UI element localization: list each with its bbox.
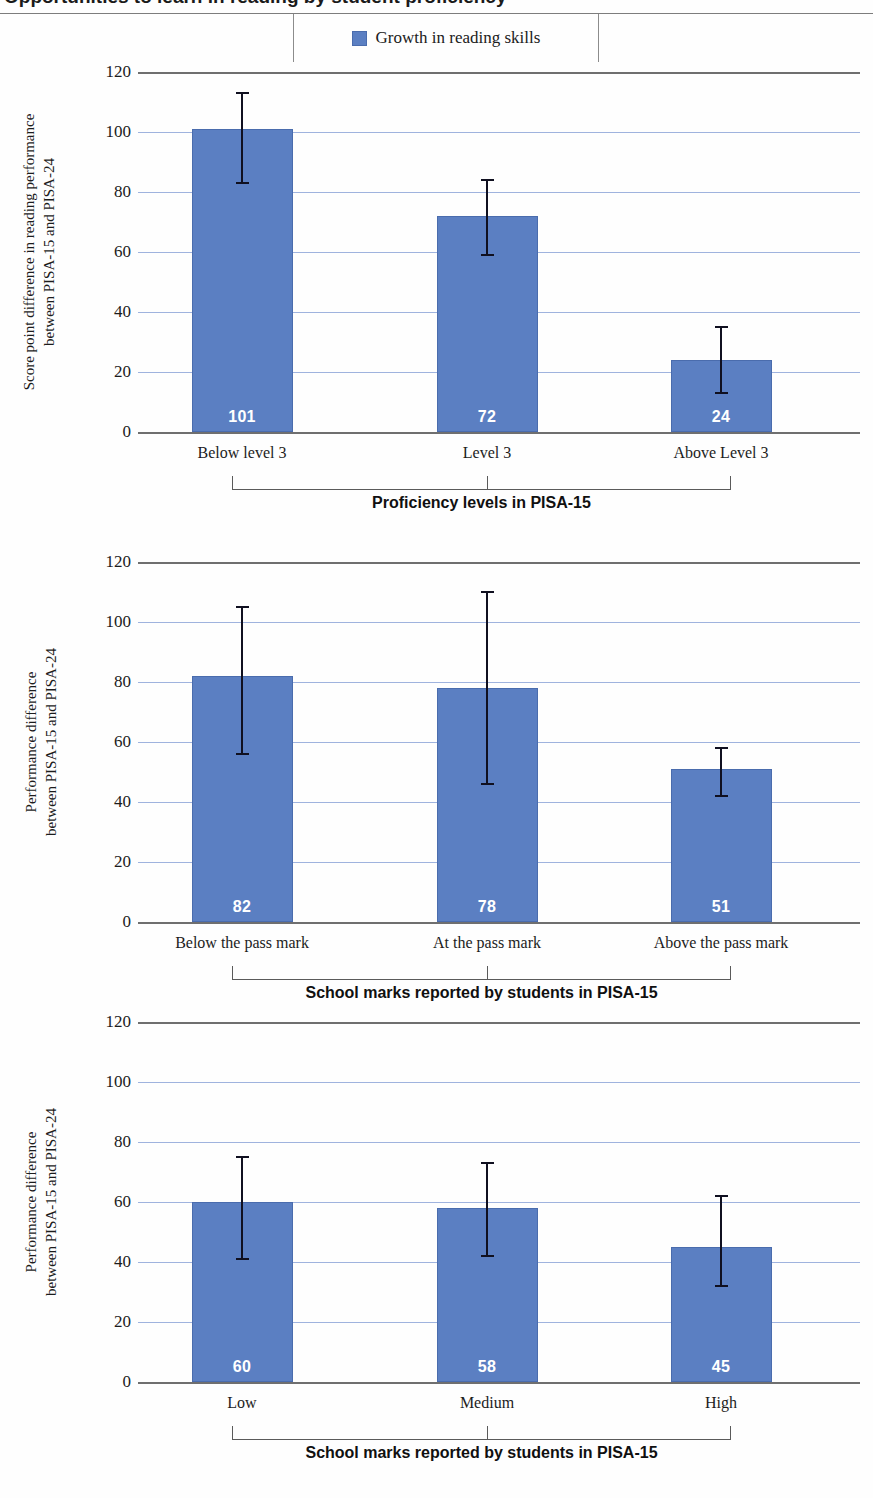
figure-page: Opportunities to learn in reading by stu…	[0, 0, 873, 1498]
bar-value-label: 72	[438, 408, 537, 426]
category-group-bracket	[232, 476, 731, 490]
bracket-tick-left	[232, 966, 233, 980]
bar-value-label: 78	[438, 898, 537, 916]
error-bar-cap-lower	[715, 1285, 728, 1287]
legend-swatch-icon	[352, 31, 367, 46]
y-axis-label-line1: Score point difference in reading perfor…	[21, 114, 37, 391]
error-bar	[720, 1196, 722, 1286]
x-axis-group-label: School marks reported by students in PIS…	[305, 1444, 657, 1462]
error-bar-cap-upper	[715, 747, 728, 749]
bar-value-label: 51	[672, 898, 771, 916]
legend-label: Growth in reading skills	[376, 28, 541, 48]
bar-value-label: 60	[193, 1358, 292, 1376]
y-axis-label: Performance differencebetween PISA-15 an…	[22, 1022, 62, 1382]
error-bar	[241, 1157, 243, 1259]
x-axis-group-label: School marks reported by students in PIS…	[305, 984, 657, 1002]
bracket-horizontal	[232, 489, 731, 490]
bracket-horizontal	[232, 1439, 731, 1440]
x-axis-line	[138, 432, 860, 434]
bracket-horizontal	[232, 979, 731, 980]
gridline-120	[138, 72, 860, 74]
bar-value-label: 82	[193, 898, 292, 916]
x-axis-tick-label: At the pass mark	[433, 934, 541, 952]
error-bar-cap-upper	[715, 326, 728, 328]
plot-area: 020406080100120Score point difference in…	[138, 72, 860, 432]
legend-content: Growth in reading skills	[293, 14, 599, 62]
y-axis-label: Performance differencebetween PISA-15 an…	[22, 562, 62, 922]
error-bar	[720, 327, 722, 393]
chart-proficiency: 020406080100120Score point difference in…	[0, 72, 873, 542]
x-axis-line	[138, 1382, 860, 1384]
bracket-tick-left	[232, 1426, 233, 1440]
error-bar-cap-upper	[481, 179, 494, 181]
gridline-120	[138, 1022, 860, 1024]
gridline-80	[138, 1142, 860, 1143]
error-bar	[241, 607, 243, 754]
y-axis-tick-label: 20	[46, 362, 138, 382]
y-axis-label-line2: between PISA-15 and PISA-24	[40, 72, 60, 432]
gridline-120	[138, 562, 860, 564]
error-bar-cap-lower	[236, 753, 249, 755]
error-bar-cap-lower	[715, 392, 728, 394]
figure-title-text: Opportunities to learn in reading by stu…	[4, 0, 507, 8]
bracket-tick-middle	[487, 476, 488, 490]
category-group-bracket	[232, 1426, 731, 1440]
y-axis-tick-label: 60	[46, 242, 138, 262]
error-bar-cap-lower	[715, 795, 728, 797]
y-axis-tick-label: 100	[46, 122, 138, 142]
x-axis-tick-label: High	[705, 1394, 737, 1412]
x-axis-tick-label: Level 3	[463, 444, 511, 462]
figure-title-cropped: Opportunities to learn in reading by stu…	[0, 0, 873, 14]
legend: Growth in reading skills	[293, 14, 599, 62]
y-axis-tick-label: 80	[46, 182, 138, 202]
chart-pass-mark: 020406080100120Performance differencebet…	[0, 562, 873, 1032]
bracket-tick-middle	[487, 1426, 488, 1440]
y-axis-label-line2: between PISA-15 and PISA-24	[42, 562, 62, 922]
error-bar-cap-upper	[715, 1195, 728, 1197]
error-bar-cap-upper	[481, 591, 494, 593]
plot-area: 020406080100120Performance differencebet…	[138, 562, 860, 922]
bar-value-label: 101	[193, 408, 292, 426]
bracket-tick-right	[730, 966, 731, 980]
y-axis-tick-label: 40	[46, 302, 138, 322]
bar-value-label: 58	[438, 1358, 537, 1376]
error-bar-cap-lower	[481, 783, 494, 785]
category-group-bracket	[232, 966, 731, 980]
y-axis-tick-label: 120	[46, 62, 138, 82]
x-axis-tick-label: Low	[227, 1394, 256, 1412]
bracket-tick-right	[730, 1426, 731, 1440]
error-bar-cap-lower	[236, 182, 249, 184]
error-bar-cap-lower	[236, 1258, 249, 1260]
error-bar-cap-lower	[481, 1255, 494, 1257]
error-bar	[486, 592, 488, 784]
error-bar-cap-upper	[236, 1156, 249, 1158]
error-bar	[486, 180, 488, 255]
error-bar-cap-upper	[236, 606, 249, 608]
bracket-tick-middle	[487, 966, 488, 980]
bar-value-label: 45	[672, 1358, 771, 1376]
y-axis-label-line2: between PISA-15 and PISA-24	[42, 1022, 62, 1382]
x-axis-tick-label: Above the pass mark	[654, 934, 789, 952]
gridline-100	[138, 622, 860, 623]
y-axis-label: Score point difference in reading perfor…	[20, 72, 60, 432]
error-bar	[720, 748, 722, 796]
x-axis-tick-label: Above Level 3	[673, 444, 768, 462]
error-bar-cap-upper	[236, 92, 249, 94]
x-axis-line	[138, 922, 860, 924]
bracket-tick-left	[232, 476, 233, 490]
bracket-tick-right	[730, 476, 731, 490]
error-bar-cap-upper	[481, 1162, 494, 1164]
error-bar	[241, 93, 243, 183]
x-axis-tick-label: Below the pass mark	[175, 934, 309, 952]
y-axis-tick-label: 0	[46, 422, 138, 442]
x-axis-group-label: Proficiency levels in PISA-15	[372, 494, 591, 512]
y-axis-label-line1: Performance difference	[23, 672, 39, 813]
gridline-100	[138, 1082, 860, 1083]
chart-school-marks: 020406080100120Performance differencebet…	[0, 1022, 873, 1498]
x-axis-tick-label: Below level 3	[198, 444, 287, 462]
error-bar-cap-lower	[481, 254, 494, 256]
bar-value-label: 24	[672, 408, 771, 426]
error-bar	[486, 1163, 488, 1256]
x-axis-tick-label: Medium	[460, 1394, 514, 1412]
y-axis-label-line1: Performance difference	[23, 1132, 39, 1273]
